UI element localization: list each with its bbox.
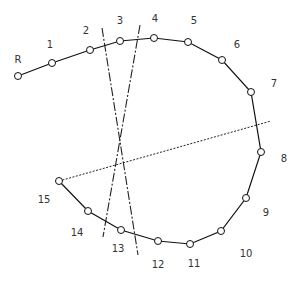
point-label-3: 3 (117, 15, 123, 26)
point-label-7: 7 (271, 78, 277, 89)
point-label-13: 13 (112, 243, 125, 254)
point-2 (87, 47, 94, 54)
point-15 (56, 178, 63, 185)
point-9 (243, 195, 250, 202)
point-label-5: 5 (191, 15, 197, 26)
point-6 (219, 57, 226, 64)
point-r (15, 73, 22, 80)
point-label-10: 10 (240, 248, 253, 259)
dash-dot-line-b (103, 25, 140, 237)
point-7 (248, 89, 255, 96)
point-12 (155, 238, 162, 245)
point-label-9: 9 (263, 207, 269, 218)
point-10 (218, 228, 225, 235)
dash-dot-line-a (102, 28, 138, 255)
point-8 (258, 149, 265, 156)
point-label-8: 8 (281, 153, 287, 164)
point-label-r: R (15, 54, 22, 65)
point-label-6: 6 (234, 39, 240, 50)
point-label-2: 2 (83, 25, 89, 36)
point-label-11: 11 (188, 258, 201, 269)
diagram-canvas: R123456789101112131415 (0, 0, 300, 283)
point-14 (85, 208, 92, 215)
point-1 (49, 60, 56, 67)
point-4 (151, 35, 158, 42)
point-label-1: 1 (47, 39, 53, 50)
points-group (15, 35, 265, 248)
point-13 (118, 227, 125, 234)
point-11 (187, 241, 194, 248)
point-label-15: 15 (38, 194, 51, 205)
point-3 (117, 38, 124, 45)
point-path (18, 38, 261, 244)
point-5 (185, 39, 192, 46)
point-label-14: 14 (71, 227, 84, 238)
point-label-12: 12 (152, 259, 165, 270)
dotted-line (59, 121, 271, 181)
point-label-4: 4 (152, 13, 158, 24)
labels-group: R123456789101112131415 (15, 13, 288, 270)
